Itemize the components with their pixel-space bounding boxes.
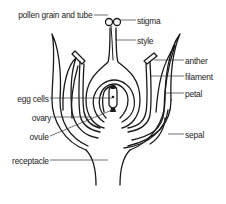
leader-ovule (50, 110, 112, 136)
label-filament: filament (185, 72, 213, 82)
stigma-left (106, 19, 113, 26)
stigma-right (114, 19, 121, 26)
anther-left (72, 51, 85, 64)
egg-cell (112, 96, 115, 99)
label-anther: anther (185, 56, 208, 66)
label-ovule: ovule (30, 132, 49, 142)
flower-diagram: pollen grain and tube stigma style anthe… (0, 0, 226, 204)
label-ovary: ovary (31, 113, 51, 123)
label-style: style (137, 36, 153, 46)
label-egg-cells: egg cells (18, 94, 49, 104)
label-receptacle: receptacle (12, 156, 49, 166)
ovule-stalk (110, 108, 116, 112)
label-pollen-grain-and-tube: pollen grain and tube (19, 10, 93, 20)
label-stigma: stigma (137, 16, 161, 26)
stem-right (120, 150, 130, 185)
ovary-layer-2 (99, 84, 128, 118)
stem-left (86, 150, 96, 185)
leader-style (116, 30, 136, 40)
pollen-tube (111, 26, 113, 60)
label-sepal: sepal (185, 130, 204, 140)
ovule-top (110, 85, 116, 89)
ovary-wall-left (86, 28, 110, 128)
label-petal: petal (185, 89, 202, 99)
